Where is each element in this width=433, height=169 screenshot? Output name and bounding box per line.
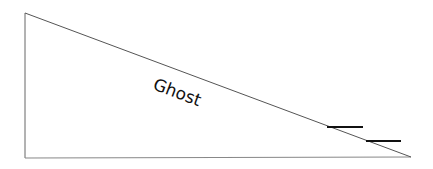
hypotenuse-incline (25, 13, 411, 157)
ghost-label: Ghost (150, 74, 204, 110)
base-edge (25, 157, 411, 158)
incline-diagram: Ghost (0, 0, 433, 169)
